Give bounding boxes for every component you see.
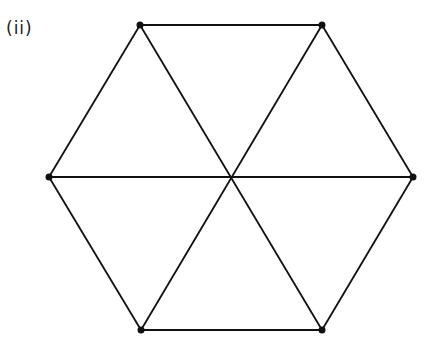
vertex-right xyxy=(410,174,417,181)
edge-left-top-left xyxy=(49,25,140,177)
vertex-bottom-right xyxy=(319,327,326,334)
vertex-bottom-left xyxy=(138,327,145,334)
vertex-left xyxy=(46,174,53,181)
edge-bottom-left-left xyxy=(49,177,141,330)
edge-right-bottom-right xyxy=(322,177,413,330)
edge-top-right-right xyxy=(322,25,413,177)
vertex-top-right xyxy=(319,22,326,29)
hexagon-diagram xyxy=(0,0,428,347)
vertex-top-left xyxy=(137,22,144,29)
